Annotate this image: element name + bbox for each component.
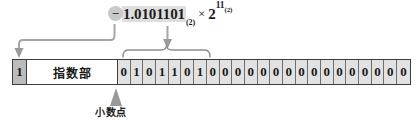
mantissa-bit-cell[interactable]: 0 bbox=[397, 60, 410, 84]
exponent-base-subscript: (2) bbox=[224, 6, 232, 14]
floating-point-formula: − 1.0101101(2) × 211(2) bbox=[108, 5, 232, 25]
mantissa-value: 1.0101101 bbox=[122, 6, 186, 22]
mantissa-bit-cell[interactable]: 0 bbox=[207, 60, 220, 84]
mantissa-bit-cell[interactable]: 0 bbox=[346, 60, 359, 84]
mantissa-bit-cell[interactable]: 1 bbox=[156, 60, 169, 84]
mantissa-bit-cell[interactable]: 0 bbox=[258, 60, 271, 84]
mantissa-bit-cell[interactable]: 1 bbox=[131, 60, 144, 84]
mantissa-bit-cell[interactable]: 0 bbox=[372, 60, 385, 84]
mantissa-connector-arrow bbox=[163, 39, 172, 49]
mantissa-bit-cell[interactable]: 1 bbox=[169, 60, 182, 84]
exponent-field-cell[interactable]: 指数部 bbox=[27, 60, 118, 84]
decimal-point-label: 小数点 bbox=[95, 104, 127, 119]
mantissa-bit-cell[interactable]: 0 bbox=[321, 60, 334, 84]
mantissa-bit-cell[interactable]: 0 bbox=[143, 60, 156, 84]
mantissa-bit-cell[interactable]: 0 bbox=[296, 60, 309, 84]
mantissa-bit-cell[interactable]: 0 bbox=[232, 60, 245, 84]
sign-bit-cell[interactable]: 1 bbox=[13, 60, 27, 84]
mantissa-bit-cell[interactable]: 0 bbox=[384, 60, 397, 84]
mantissa-bit-cell[interactable]: 0 bbox=[308, 60, 321, 84]
exponent-group: 211(2) bbox=[208, 5, 232, 23]
mantissa-bit-cell[interactable]: 0 bbox=[220, 60, 233, 84]
mantissa-base-subscript: (2) bbox=[186, 18, 195, 27]
sign-connector-arrow bbox=[15, 48, 24, 58]
mantissa-bit-cell[interactable]: 0 bbox=[118, 60, 131, 84]
negative-sign-highlight: − bbox=[108, 6, 123, 21]
mantissa-bit-cell[interactable]: 1 bbox=[194, 60, 207, 84]
mantissa-bit-cell[interactable]: 0 bbox=[270, 60, 283, 84]
exponent-value: 11(2) bbox=[216, 0, 233, 10]
mantissa-group: 1.0101101(2) bbox=[122, 6, 195, 25]
exponent-base: 2 bbox=[208, 6, 215, 22]
mantissa-bit-cell[interactable]: 0 bbox=[334, 60, 347, 84]
mantissa-bit-cell[interactable]: 0 bbox=[245, 60, 258, 84]
mantissa-brace bbox=[123, 45, 210, 57]
mantissa-bit-cell[interactable]: 0 bbox=[181, 60, 194, 84]
multiplication-operator: × bbox=[198, 6, 205, 22]
mantissa-bit-cell[interactable]: 0 bbox=[283, 60, 296, 84]
figure-root: − 1.0101101(2) × 211(2) 1 指数部 0 1 0 1 1 … bbox=[0, 0, 420, 124]
mantissa-bit-cell[interactable]: 0 bbox=[359, 60, 372, 84]
sign-connector-line bbox=[19, 24, 115, 50]
bit-layout-bar: 1 指数部 0 1 0 1 1 0 1 0 0 0 0 0 0 0 0 0 0 … bbox=[12, 59, 411, 85]
